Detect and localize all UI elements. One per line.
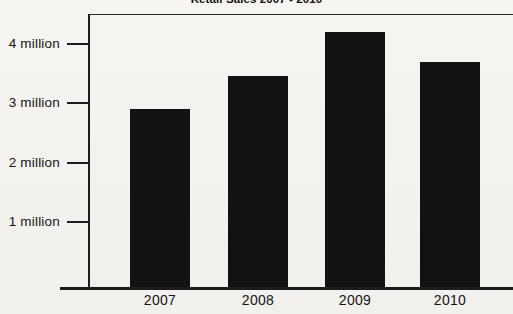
x-tick-label-2007: 2007 (144, 292, 176, 308)
bar-2008 (228, 76, 288, 287)
bar-2010 (420, 62, 480, 287)
x-tick-label-2008: 2008 (242, 292, 274, 308)
chart-canvas: Retail Sales 2007 - 2010 4 million 3 mil… (0, 0, 513, 314)
x-tick-label-2009: 2009 (339, 292, 371, 308)
bar-2007 (130, 109, 190, 288)
bar-series (0, 0, 513, 287)
x-tick-label-2010: 2010 (434, 292, 466, 308)
bar-2009 (325, 32, 385, 287)
x-axis-line (60, 287, 513, 290)
